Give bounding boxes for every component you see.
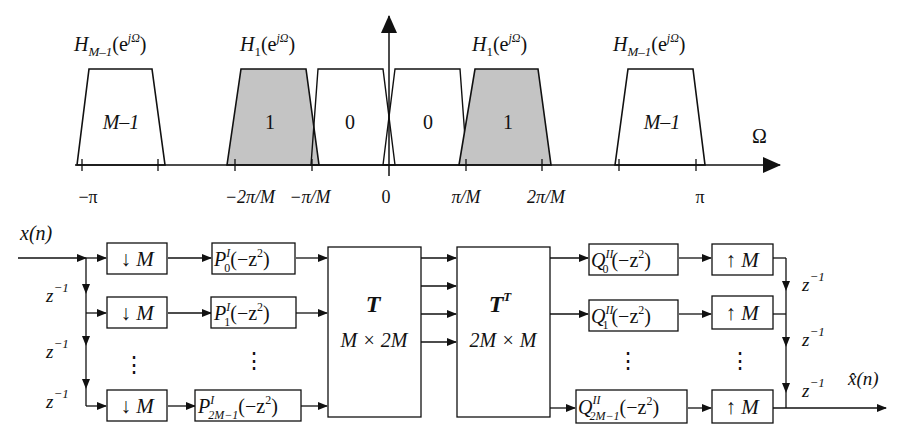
downsampler-0: ↓ M: [107, 243, 167, 274]
analysis-filter-p2m1: PI2M−1(−z2): [195, 390, 301, 422]
matrix-tt-dims: 2M × M: [470, 329, 538, 351]
tick-label: 0: [382, 187, 391, 207]
upsampler-2m1: ↑ M: [712, 390, 773, 423]
ellipsis: ⋮: [243, 348, 265, 373]
tick-label: π/M: [451, 187, 481, 207]
filter-band-1-right: 1: [459, 69, 551, 165]
synthesis-filter-q1: QII1(−z2): [589, 300, 678, 332]
tick-label: −π: [78, 187, 97, 207]
ellipsis: ⋮: [617, 348, 639, 373]
filter-title-hm1-left: HM–1(ejΩ): [73, 31, 147, 59]
svg-text:↓ M: ↓ M: [120, 247, 155, 271]
delay-label: z−1: [45, 280, 69, 306]
synthesis-filter-q2m1: QII2M−1(−z2): [576, 390, 687, 423]
spectrum-plot: M–1 1 0 0 1 M–1 Ω: [73, 16, 780, 207]
block-diagram: x(n) z−1 z−1 z−1 ↓ M ↓ M ↓ M ⋮: [18, 222, 886, 423]
band-label: M–1: [102, 111, 140, 133]
filter-band-0-left: 0: [311, 69, 395, 165]
delay-label: z−1: [801, 375, 825, 401]
svg-text:↓ M: ↓ M: [120, 301, 155, 325]
band-label: M–1: [643, 111, 681, 133]
delay-label: z−1: [801, 324, 825, 350]
matrix-t-name: T: [366, 291, 382, 317]
matrix-tt-block: TT 2M × M: [457, 247, 550, 417]
filter-band-m1-right: M–1: [615, 69, 705, 165]
upsampler-1: ↑ M: [712, 296, 773, 329]
band-label: 1: [265, 111, 275, 133]
filter-bank-figure: M–1 1 0 0 1 M–1 Ω: [0, 0, 912, 446]
analysis-filter-p0: PI0(−z2): [212, 243, 295, 275]
band-label: 0: [423, 111, 433, 133]
band-label: 1: [503, 111, 513, 133]
delay-label: z−1: [801, 269, 825, 295]
analysis-filter-p1: PI1(−z2): [211, 297, 296, 329]
filter-band-1-left: 1: [227, 69, 319, 165]
right-delay-labels: z−1 z−1 z−1: [801, 269, 825, 401]
filter-title-hm1-right: HM–1(ejΩ): [612, 31, 686, 59]
filter-band-m1-left: M–1: [77, 69, 165, 165]
svg-text:↑ M: ↑ M: [725, 301, 760, 325]
delay-label: z−1: [45, 386, 69, 412]
tick-labels: −π −2π/M −π/M 0 π/M 2π/M π: [78, 187, 704, 207]
filter-title-h1-left: H1(ejΩ): [239, 31, 295, 59]
left-delay-labels: z−1 z−1 z−1: [45, 280, 69, 412]
tick-label: −2π/M: [225, 187, 276, 207]
tick-label: π: [695, 187, 704, 207]
synthesis-filter-q0: QII0(−z2): [589, 244, 678, 276]
downsampler-2m1: ↓ M: [107, 390, 167, 421]
axis-label-omega: Ω: [752, 125, 767, 147]
input-label: x(n): [19, 222, 53, 245]
upsampler-0: ↑ M: [712, 244, 773, 275]
band-label: 0: [345, 111, 355, 133]
tick-label: −π/M: [289, 187, 331, 207]
matrix-t-block: T M × 2M: [328, 247, 421, 417]
svg-text:↑ M: ↑ M: [725, 248, 760, 272]
ellipsis: ⋮: [729, 348, 751, 373]
delay-label: z−1: [45, 336, 69, 362]
tick-label: 2π/M: [527, 187, 566, 207]
output-label: x̂(n): [847, 368, 879, 390]
svg-text:↑ M: ↑ M: [725, 395, 760, 419]
filter-band-0-right: 0: [383, 69, 467, 165]
ellipsis: ⋮: [123, 352, 145, 377]
filter-title-h1-right: H1(ejΩ): [471, 31, 527, 59]
svg-text:↓ M: ↓ M: [120, 394, 155, 418]
matrix-t-dims: M × 2M: [340, 329, 409, 351]
downsampler-1: ↓ M: [107, 297, 167, 328]
